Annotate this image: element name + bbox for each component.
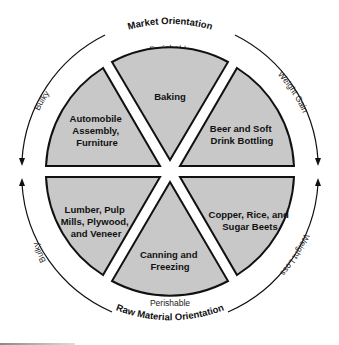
arrow-down-right-icon [315,158,321,166]
market-orientation-title: Market Orientation [126,15,214,32]
perishable-bottom-label: Perishable [150,298,190,308]
bulky-upper-label: Bulky [32,88,52,112]
sector-label-automobile: Automobile Assembly, Furniture [70,113,125,148]
weight-gain-label: Weight Gain [276,69,310,114]
sector-label-baking: Baking [154,91,186,102]
industry-orientation-diagram: Market Orientation Raw Material Orientat… [0,0,339,345]
bulky-lower-label: Bulky [30,240,48,264]
arrow-down-left-icon [19,158,25,166]
arrow-up-right-icon [315,178,321,186]
sector-label-lumber: Lumber, Pulp Mills, Plywood, and Veneer [61,204,132,239]
weight-loss-label: Weight Loss [278,233,312,278]
sector-label-beer: Beer and Soft Drink Bottling [210,123,274,146]
arrow-up-left-icon [19,178,25,186]
